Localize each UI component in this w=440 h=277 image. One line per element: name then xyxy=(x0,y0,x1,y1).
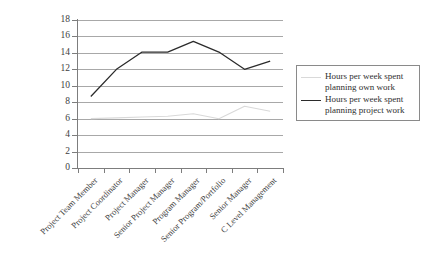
legend-item-project-work: Hours per week spent planning project wo… xyxy=(301,94,419,116)
line-chart: 181614121086420 Project Team MemberProje… xyxy=(0,0,440,277)
chart-legend: Hours per week spent planning own work H… xyxy=(296,65,420,121)
series-line xyxy=(91,41,270,96)
legend-item-own-work: Hours per week spent planning own work xyxy=(301,71,419,93)
series-line xyxy=(91,106,270,118)
series-layer xyxy=(0,0,440,277)
legend-label-project-work: Hours per week spent planning project wo… xyxy=(325,94,419,116)
legend-swatch-own-work xyxy=(301,77,321,78)
legend-swatch-project-work xyxy=(301,100,321,101)
legend-label-own-work: Hours per week spent planning own work xyxy=(325,71,419,93)
